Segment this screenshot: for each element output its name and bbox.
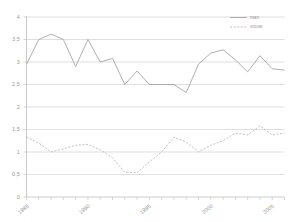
y-tick-label: 2,5 xyxy=(2,81,20,87)
y-tick-label: 3 xyxy=(2,59,20,65)
legend-item-man: man xyxy=(250,15,259,20)
y-tick-label: 4 xyxy=(2,14,20,20)
y-tick-marks xyxy=(24,17,27,197)
x-tick-marks xyxy=(27,197,285,200)
y-tick-label: 1,5 xyxy=(2,126,20,132)
series-man-line xyxy=(27,34,285,93)
legend-swatches xyxy=(230,18,247,28)
y-tick-label: 0,5 xyxy=(2,171,20,177)
line-chart: 00,511,522,533,54 19851990199520002005 m… xyxy=(0,0,289,222)
y-tick-label: 2 xyxy=(2,104,20,110)
y-tick-label: 3,5 xyxy=(2,36,20,42)
y-tick-label: 0 xyxy=(2,194,20,200)
chart-plot-area xyxy=(0,0,289,222)
y-tick-label: 1 xyxy=(2,149,20,155)
gridlines xyxy=(27,17,285,175)
series-vrouw-line xyxy=(27,126,285,173)
legend-item-vrouw: vrouw xyxy=(250,24,262,29)
